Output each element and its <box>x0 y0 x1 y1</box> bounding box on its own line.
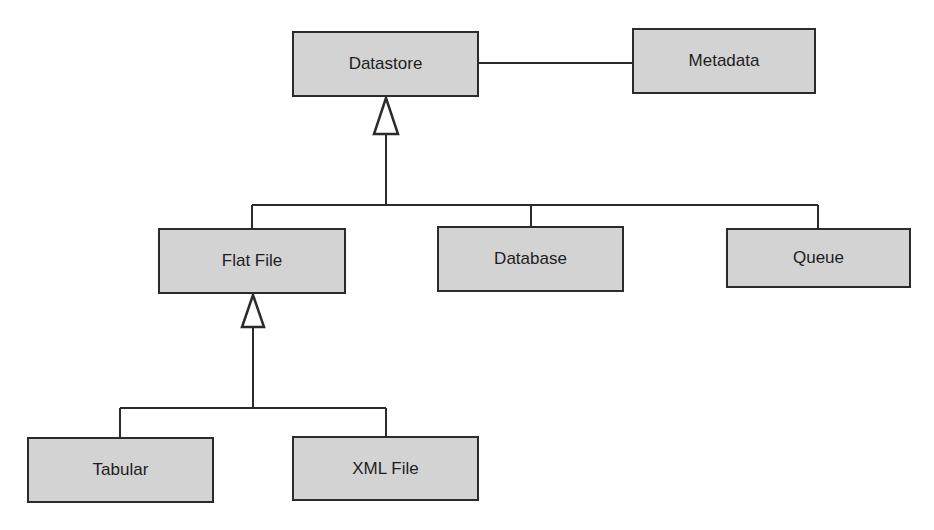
generalization-arrowhead-icon <box>242 295 264 327</box>
class-label: XML File <box>352 459 418 479</box>
class-box-datastore: Datastore <box>292 31 479 97</box>
class-box-database: Database <box>437 226 624 292</box>
class-box-queue: Queue <box>726 228 911 288</box>
class-label: Flat File <box>222 251 282 271</box>
class-label: Metadata <box>689 51 760 71</box>
class-label: Database <box>494 249 567 269</box>
class-diagram: Datastore Metadata Flat File Database Qu… <box>0 0 934 530</box>
class-box-metadata: Metadata <box>632 28 816 94</box>
class-label: Queue <box>793 248 844 268</box>
generalization-arrowhead-icon <box>374 98 398 134</box>
class-label: Datastore <box>349 54 423 74</box>
class-label: Tabular <box>93 460 149 480</box>
class-box-xml-file: XML File <box>292 436 479 501</box>
class-box-flat-file: Flat File <box>158 228 346 294</box>
class-box-tabular: Tabular <box>27 437 214 503</box>
